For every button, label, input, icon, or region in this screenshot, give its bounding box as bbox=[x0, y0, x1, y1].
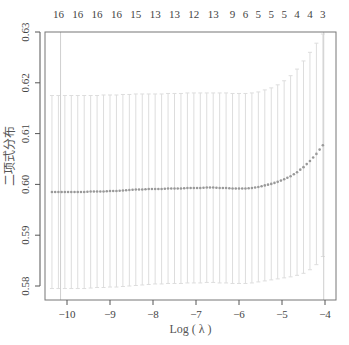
top-count-label: 15 bbox=[130, 8, 142, 20]
data-point bbox=[193, 187, 196, 190]
top-count-label: 16 bbox=[72, 8, 84, 20]
data-point bbox=[305, 163, 308, 166]
data-point bbox=[293, 173, 296, 176]
data-point bbox=[167, 187, 170, 190]
data-point bbox=[51, 191, 54, 194]
data-point bbox=[164, 187, 167, 190]
data-point bbox=[225, 187, 228, 190]
top-count-label: 13 bbox=[150, 8, 162, 20]
data-point bbox=[251, 187, 254, 190]
y-tick-label: 0.63 bbox=[19, 22, 31, 42]
data-point bbox=[286, 176, 289, 179]
data-point bbox=[212, 186, 215, 189]
data-point bbox=[241, 187, 244, 190]
data-point bbox=[312, 156, 315, 159]
plot-frame bbox=[45, 32, 336, 300]
data-point bbox=[222, 187, 225, 190]
x-axis-title: Log ( λ ) bbox=[169, 322, 211, 336]
data-point bbox=[247, 187, 250, 190]
y-tick-label: 0.62 bbox=[19, 73, 31, 92]
data-point bbox=[202, 186, 205, 189]
cv-deviance-chart: −10−9−8−7−6−5−4 0.580.590.600.610.620.63… bbox=[0, 0, 349, 345]
x-tick-label: −9 bbox=[104, 308, 116, 320]
data-point bbox=[80, 191, 83, 194]
data-point bbox=[205, 186, 208, 189]
top-count-label: 5 bbox=[269, 8, 275, 20]
data-point bbox=[264, 184, 267, 187]
data-point bbox=[151, 188, 154, 191]
data-point bbox=[57, 191, 60, 194]
data-point bbox=[289, 175, 292, 178]
data-point bbox=[322, 144, 325, 147]
data-point bbox=[176, 187, 179, 190]
data-point bbox=[73, 191, 76, 194]
data-point bbox=[228, 187, 231, 190]
x-tick-label: −5 bbox=[276, 308, 288, 320]
x-tick-label: −7 bbox=[190, 308, 202, 320]
data-point bbox=[70, 191, 73, 194]
data-point bbox=[131, 188, 134, 191]
data-point bbox=[283, 178, 286, 181]
data-point bbox=[299, 168, 302, 171]
data-point bbox=[273, 182, 276, 185]
y-tick-label: 0.61 bbox=[19, 124, 31, 143]
top-count-label: 13 bbox=[208, 8, 220, 20]
data-point bbox=[199, 187, 202, 190]
data-point bbox=[112, 190, 115, 193]
data-point bbox=[54, 191, 57, 194]
data-point bbox=[118, 189, 121, 192]
data-point bbox=[83, 191, 86, 194]
data-point bbox=[102, 190, 105, 193]
data-point bbox=[231, 187, 234, 190]
data-point bbox=[280, 179, 283, 182]
data-point bbox=[105, 190, 108, 193]
data-point bbox=[254, 186, 257, 189]
y-axis: 0.580.590.600.610.620.63 bbox=[19, 22, 40, 296]
y-tick-label: 0.60 bbox=[19, 174, 31, 194]
x-tick-label: −6 bbox=[233, 308, 245, 320]
y-tick-label: 0.58 bbox=[19, 276, 31, 296]
data-point bbox=[109, 190, 112, 193]
data-point bbox=[93, 190, 96, 193]
data-point bbox=[115, 190, 118, 193]
data-point bbox=[315, 153, 318, 156]
data-point bbox=[99, 190, 102, 193]
top-count-label: 4 bbox=[294, 8, 300, 20]
top-axis-nonzero-counts: 16161616151313121396555443 bbox=[53, 8, 326, 20]
y-tick-label: 0.59 bbox=[19, 225, 31, 245]
data-point bbox=[238, 187, 241, 190]
data-point bbox=[76, 191, 79, 194]
data-point bbox=[170, 187, 173, 190]
top-count-label: 16 bbox=[92, 8, 104, 20]
error-bars bbox=[50, 34, 325, 289]
data-point bbox=[89, 190, 92, 193]
data-point bbox=[60, 191, 63, 194]
data-point bbox=[267, 183, 270, 186]
x-tick-label: −10 bbox=[58, 308, 76, 320]
top-count-label: 16 bbox=[53, 8, 65, 20]
data-point bbox=[125, 189, 128, 192]
data-point bbox=[244, 187, 247, 190]
top-count-label: 13 bbox=[169, 8, 181, 20]
data-point bbox=[138, 188, 141, 191]
data-point bbox=[141, 188, 144, 191]
data-point bbox=[96, 190, 99, 193]
data-point bbox=[67, 191, 70, 194]
data-point bbox=[122, 189, 125, 192]
data-point bbox=[183, 187, 186, 190]
data-point bbox=[218, 187, 221, 190]
data-point bbox=[209, 186, 212, 189]
x-tick-label: −8 bbox=[147, 308, 159, 320]
data-point bbox=[270, 183, 273, 186]
data-point bbox=[135, 188, 138, 191]
x-axis: −10−9−8−7−6−5−4 bbox=[58, 300, 331, 320]
data-point bbox=[86, 190, 89, 193]
data-point bbox=[318, 148, 321, 151]
top-count-label: 12 bbox=[188, 8, 199, 20]
data-point bbox=[257, 186, 260, 189]
data-point bbox=[180, 187, 183, 190]
data-point bbox=[147, 188, 150, 191]
data-point bbox=[144, 188, 147, 191]
top-count-label: 5 bbox=[256, 8, 262, 20]
data-point bbox=[154, 188, 157, 191]
